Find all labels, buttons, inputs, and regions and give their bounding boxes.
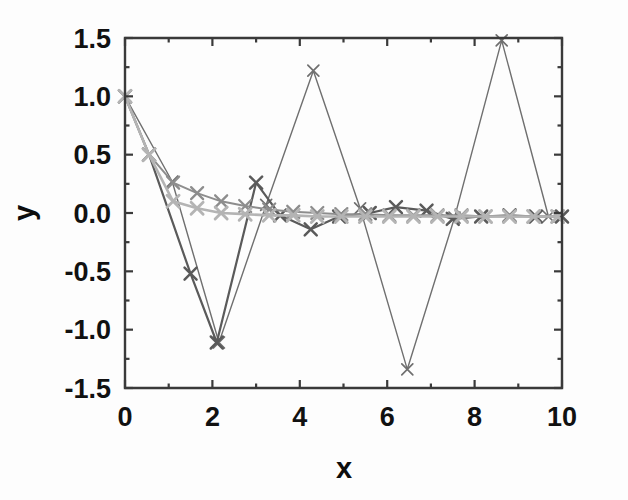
y-tick-label: -1.0 (64, 315, 111, 345)
y-tick-label: 1.5 (73, 24, 111, 54)
y-axis-title: y (8, 205, 40, 221)
y-tick-label: 0.0 (73, 199, 111, 229)
chart-canvas: 0246810-1.5-1.0-0.50.00.51.01.5 x y (0, 0, 628, 500)
y-tick-label: 0.5 (73, 140, 111, 170)
y-tick-label: -0.5 (64, 257, 111, 287)
x-tick-label: 8 (467, 402, 482, 432)
x-tick-label: 0 (117, 402, 132, 432)
x-axis-title: x (336, 452, 352, 484)
y-tick-label: -1.5 (64, 374, 111, 404)
chart-background (0, 0, 628, 500)
x-tick-label: 2 (205, 402, 220, 432)
x-tick-label: 4 (292, 402, 307, 432)
figure-panel: 0246810-1.5-1.0-0.50.00.51.01.5 x y (0, 0, 628, 500)
x-tick-label: 6 (380, 402, 395, 432)
x-tick-label: 10 (547, 402, 577, 432)
y-tick-label: 1.0 (73, 82, 111, 112)
